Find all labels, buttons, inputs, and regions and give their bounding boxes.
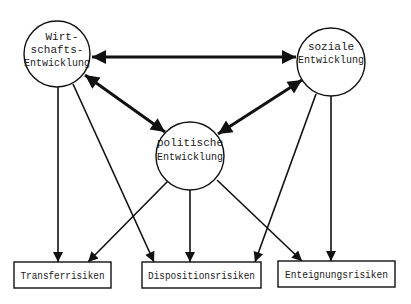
edge-sozial-disposition bbox=[255, 94, 316, 262]
node-sozial: soziale Entwicklung bbox=[297, 28, 365, 96]
risk-influence-diagram: Wirt- schafts- Entwicklung soziale Entwi… bbox=[0, 0, 411, 304]
edge-wirtschaft-politisch bbox=[85, 75, 165, 132]
node-label-line: schafts- bbox=[31, 44, 84, 56]
node-label-line: Entwicklung bbox=[24, 57, 90, 69]
node-label-line: Entwicklung bbox=[298, 54, 364, 66]
node-transfer: Transferrisiken bbox=[14, 262, 111, 288]
node-label-line: soziale bbox=[308, 41, 354, 53]
edge-politisch-transfer bbox=[88, 181, 168, 262]
node-wirtschaft: Wirt- schafts- Entwicklung bbox=[24, 21, 90, 87]
node-politisch: politische Entwicklung bbox=[156, 122, 224, 190]
node-label-line: politische bbox=[157, 137, 223, 149]
node-label: Transferrisiken bbox=[21, 270, 105, 282]
node-label: Dispositionsrisiken bbox=[148, 270, 255, 282]
node-label-line: Wirt- bbox=[45, 31, 78, 43]
node-disposition: Dispositionsrisiken bbox=[142, 262, 261, 288]
node-enteignung: Enteignungsrisiken bbox=[278, 261, 395, 287]
node-label-line: Entwicklung bbox=[157, 151, 223, 163]
edge-sozial-politisch bbox=[218, 80, 302, 134]
node-label: Enteignungsrisiken bbox=[285, 269, 388, 281]
